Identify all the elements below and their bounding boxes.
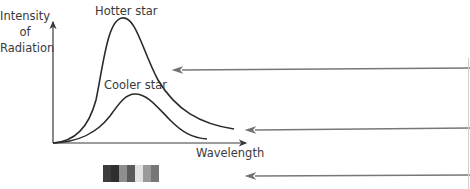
y-axis-label-line-1: Intensity — [0, 8, 50, 24]
pointer-arrow-top — [182, 68, 470, 70]
hotter-star-label: Hotter star — [95, 4, 157, 18]
blackbody-diagram: Intensity of Radiation Hotter star Coole… — [0, 0, 470, 189]
y-axis-label-line-3: Radiation — [0, 40, 50, 56]
x-axis-label: Wavelength — [196, 146, 264, 160]
spectrum-block — [143, 165, 151, 182]
spectrum-block — [135, 165, 143, 182]
spectrum-strip — [103, 165, 159, 182]
pointer-arrow-middle — [255, 128, 470, 130]
right-edge-divider — [468, 58, 469, 189]
spectrum-block — [111, 165, 119, 182]
cooler-star-label: Cooler star — [104, 78, 167, 92]
spectrum-block — [151, 165, 159, 182]
pointer-arrow-bottom — [255, 175, 470, 176]
spectrum-block — [119, 165, 127, 182]
spectrum-block — [103, 165, 111, 182]
y-axis-label-line-2: of — [0, 24, 50, 40]
spectrum-block — [127, 165, 135, 182]
diagram-canvas — [0, 0, 470, 189]
y-axis-label: Intensity of Radiation — [0, 8, 50, 56]
